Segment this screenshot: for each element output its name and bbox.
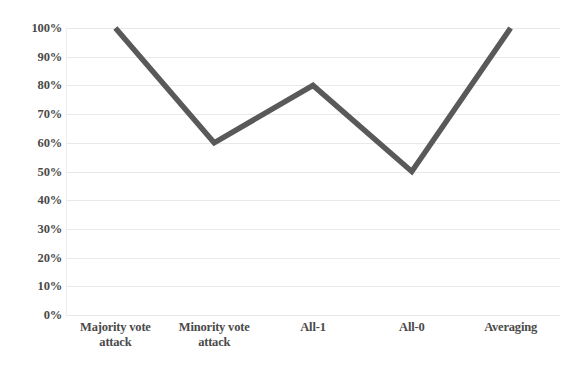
x-tick-label: All-1 (264, 320, 363, 335)
gridline (66, 315, 560, 316)
y-axis-line (66, 28, 67, 316)
gridline (66, 200, 560, 201)
y-tick-label: 30% (10, 221, 62, 236)
x-axis-tick-labels: Majority vote attack Minority vote attac… (66, 320, 560, 368)
x-tick-label: Majority vote attack (66, 320, 165, 350)
gridline (66, 286, 560, 287)
y-tick-label: 50% (10, 164, 62, 179)
gridline (66, 229, 560, 230)
gridline (66, 143, 560, 144)
gridline (66, 114, 560, 115)
gridline (66, 258, 560, 259)
y-tick-label: 80% (10, 78, 62, 93)
line-chart: 100% 90% 80% 70% 60% 50% 40% 30% 20% 10%… (0, 0, 582, 375)
gridline (66, 85, 560, 86)
y-axis-tick-labels: 100% 90% 80% 70% 60% 50% 40% 30% 20% 10%… (0, 28, 62, 315)
y-tick-label: 70% (10, 107, 62, 122)
y-tick-label: 100% (10, 21, 62, 36)
gridline (66, 57, 560, 58)
x-tick-label: All-0 (362, 320, 461, 335)
x-tick-label: Minority vote attack (165, 320, 264, 350)
plot-area (66, 28, 560, 315)
gridline (66, 28, 560, 29)
y-tick-label: 20% (10, 250, 62, 265)
y-tick-label: 60% (10, 135, 62, 150)
y-tick-label: 40% (10, 193, 62, 208)
x-tick-label: Averaging (461, 320, 560, 335)
gridline (66, 172, 560, 173)
y-tick-label: 10% (10, 279, 62, 294)
y-tick-label: 0% (10, 308, 62, 323)
y-tick-label: 90% (10, 49, 62, 64)
